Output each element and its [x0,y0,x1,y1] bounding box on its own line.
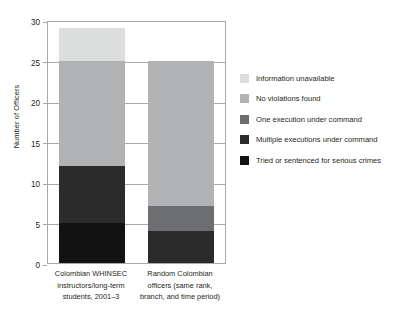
bar-1[interactable] [59,28,125,263]
legend-label: Information unavailable [256,74,335,83]
legend-swatch-icon [240,94,249,103]
stacked-bar-chart: Number of Officers 302520151050 Colombia… [0,0,408,312]
bar-segment[interactable] [148,231,214,263]
x-axis-label-line: students, 2001–3 [43,291,139,303]
x-axis-label-line: instructors/long-term [43,280,139,292]
legend-item[interactable]: Tried or sentenced for serious crimes [240,150,408,171]
y-axis-tick-label: 30 [31,18,40,27]
legend-label: No violations found [256,94,321,103]
x-axis-label-line: Colombian WHINSEC [43,268,139,280]
plot-area: 302520151050 [47,21,226,264]
bar-2[interactable] [148,61,214,264]
y-axis-tick [43,184,47,185]
x-axis-label-line: branch, and time period) [132,291,228,303]
y-axis-tick-label: 5 [35,220,40,229]
x-axis-label-1: Colombian WHINSECinstructors/long-termst… [43,268,139,303]
y-axis-tick [43,224,47,225]
y-axis-tick [43,103,47,104]
legend-label: Tried or sentenced for serious crimes [256,156,381,165]
x-axis-labels: Colombian WHINSECinstructors/long-termst… [47,268,226,310]
y-axis-tick [43,265,47,266]
y-axis-tick [43,22,47,23]
legend-label: One execution under command [256,115,362,124]
legend-label: Multiple executions under command [256,135,378,144]
x-axis-label-line: Random Colombian [132,268,228,280]
x-axis-label-2: Random Colombianofficers (same rank,bran… [132,268,228,303]
legend-item[interactable]: Multiple executions under command [240,130,408,151]
legend-item[interactable]: Information unavailable [240,68,408,89]
y-axis-tick-label: 15 [31,139,40,148]
legend-item[interactable]: No violations found [240,89,408,110]
bar-segment[interactable] [148,206,214,230]
legend-swatch-icon [240,74,249,83]
x-axis-label-line: officers (same rank, [132,280,228,292]
y-axis-tick [43,143,47,144]
chart-legend: Information unavailableNo violations fou… [240,68,408,171]
y-axis-tick-label: 10 [31,180,40,189]
legend-item[interactable]: One execution under command [240,109,408,130]
bar-segment[interactable] [59,166,125,223]
y-axis-tick-label: 0 [35,261,40,270]
y-axis-tick-label: 25 [31,58,40,67]
y-axis-title: Number of Officers [12,57,21,177]
bar-segment[interactable] [59,223,125,264]
y-axis-tick-label: 20 [31,99,40,108]
bar-segment[interactable] [59,28,125,60]
bar-segment[interactable] [59,61,125,166]
legend-swatch-icon [240,156,249,165]
y-axis-tick [43,62,47,63]
legend-swatch-icon [240,115,249,124]
legend-swatch-icon [240,135,249,144]
bar-segment[interactable] [148,61,214,207]
